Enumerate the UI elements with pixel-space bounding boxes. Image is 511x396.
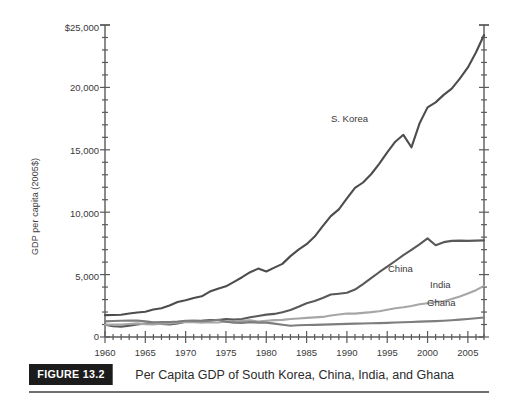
y-tick-label-10000: 10,000	[70, 208, 99, 219]
x-tick-labels: 1960196519701975198019851990199520002005	[94, 347, 478, 356]
x-tick-label-1975: 1975	[215, 347, 236, 356]
y-tick-label-0: 0	[94, 331, 99, 342]
x-tick-label-1980: 1980	[256, 347, 277, 356]
x-tick-label-1990: 1990	[336, 347, 357, 356]
figure-container: GDP per capita (2005$) 0 5,000 10,000 15…	[0, 0, 511, 396]
figure-number-badge: FIGURE 13.2	[29, 364, 113, 385]
y-tick-label-15000: 15,000	[70, 145, 99, 156]
y-tick-label-20000: 20,000	[70, 82, 99, 93]
x-tick-label-1965: 1965	[135, 347, 156, 356]
series-line-s-korea	[105, 35, 484, 315]
gdp-line-chart: GDP per capita (2005$) 0 5,000 10,000 15…	[0, 0, 511, 356]
series-label-ghana: Ghana	[427, 297, 456, 308]
figure-caption-bar: FIGURE 13.2 Per Capita GDP of South Kore…	[0, 358, 511, 396]
x-tick-label-1960: 1960	[94, 347, 115, 356]
axis-lines	[100, 25, 489, 343]
y-tick-label-5000: 5,000	[75, 271, 99, 282]
caption-divider	[29, 391, 489, 393]
y-axis-title: GDP per capita (2005$)	[30, 158, 40, 255]
x-tick-label-1970: 1970	[175, 347, 196, 356]
series-label-skorea: S. Korea	[331, 113, 369, 124]
series-label-india: India	[430, 279, 451, 290]
x-tick-label-2000: 2000	[417, 347, 438, 356]
x-tick-label-1995: 1995	[377, 347, 398, 356]
figure-caption-text: Per Capita GDP of South Korea, China, In…	[135, 368, 454, 382]
series-label-china: China	[388, 263, 414, 274]
x-tick-label-2005: 2005	[457, 347, 478, 356]
y-tick-label-25000: $25,000	[65, 22, 99, 33]
data-series-layer	[105, 35, 484, 327]
x-tick-label-1985: 1985	[296, 347, 317, 356]
chart-plot-area: GDP per capita (2005$) 0 5,000 10,000 15…	[0, 0, 511, 356]
